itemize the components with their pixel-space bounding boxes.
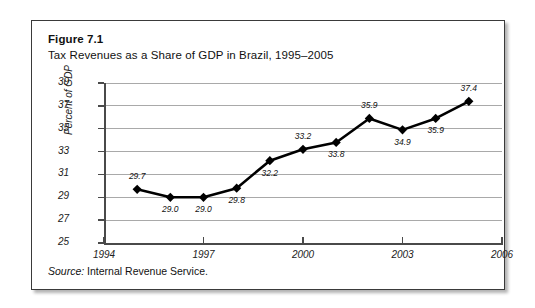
data-point-marker bbox=[298, 145, 307, 154]
y-tick-label: 37 bbox=[29, 99, 69, 110]
data-point-label: 35.9 bbox=[419, 125, 453, 135]
x-tick-label: 1997 bbox=[184, 249, 224, 260]
x-tick-label: 2006 bbox=[482, 249, 522, 260]
figure-title: Tax Revenues as a Share of GDP in Brazil… bbox=[48, 49, 334, 61]
x-tick-mark bbox=[103, 237, 104, 244]
x-tick-mark bbox=[302, 237, 303, 244]
source-note: Source: Internal Revenue Service. bbox=[48, 265, 208, 277]
y-tick-label: 35 bbox=[29, 122, 69, 133]
y-tick-label: 39 bbox=[29, 76, 69, 87]
data-point-marker bbox=[398, 125, 407, 134]
source-label: Source: bbox=[48, 265, 84, 277]
data-point-label: 33.2 bbox=[286, 131, 320, 141]
data-point-label: 29.8 bbox=[220, 195, 254, 205]
y-tick-mark bbox=[98, 174, 104, 175]
data-point-marker bbox=[464, 97, 473, 106]
y-tick-mark bbox=[98, 82, 104, 83]
data-point-marker bbox=[431, 114, 440, 123]
data-point-marker bbox=[199, 193, 208, 202]
data-point-label: 32.2 bbox=[253, 168, 287, 178]
y-tick-label: 31 bbox=[29, 167, 69, 178]
data-point-label: 33.8 bbox=[319, 149, 353, 159]
data-point-label: 34.9 bbox=[386, 137, 420, 147]
x-tick-label: 2000 bbox=[283, 249, 323, 260]
data-point-label: 29.7 bbox=[120, 171, 154, 181]
data-point-label: 29.0 bbox=[187, 204, 221, 214]
y-tick-mark bbox=[98, 219, 104, 220]
y-tick-label: 27 bbox=[29, 213, 69, 224]
x-tick-mark bbox=[203, 237, 204, 244]
y-tick-mark bbox=[98, 197, 104, 198]
x-tick-label: 1994 bbox=[84, 249, 124, 260]
x-tick-mark bbox=[501, 237, 502, 244]
data-point-label: 35.9 bbox=[352, 100, 386, 110]
data-point-label: 29.0 bbox=[153, 204, 187, 214]
chart-plot: Percent of GDP 2527293133353739199419972… bbox=[73, 83, 503, 268]
y-tick-label: 29 bbox=[29, 190, 69, 201]
figure-panel: Figure 7.1 Tax Revenues as a Share of GD… bbox=[31, 20, 505, 290]
x-tick-label: 2003 bbox=[383, 249, 423, 260]
y-tick-label: 33 bbox=[29, 145, 69, 156]
figure-number: Figure 7.1 bbox=[48, 33, 103, 45]
y-tick-label: 25 bbox=[29, 236, 69, 247]
x-tick-mark bbox=[402, 237, 403, 244]
source-value: Internal Revenue Service. bbox=[84, 265, 208, 277]
y-tick-mark bbox=[98, 105, 104, 106]
y-tick-mark bbox=[98, 128, 104, 129]
data-point-marker bbox=[133, 185, 142, 194]
data-point-marker bbox=[166, 193, 175, 202]
y-tick-mark bbox=[98, 151, 104, 152]
data-point-label: 37.4 bbox=[452, 83, 486, 93]
